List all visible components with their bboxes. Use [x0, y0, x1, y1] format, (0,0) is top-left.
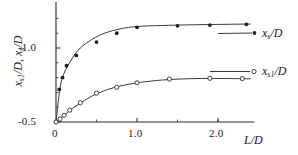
data-point-xs: [115, 31, 119, 35]
data-point-xs1: [135, 81, 139, 85]
data-point-xs: [74, 54, 78, 58]
legend-leader-xs: [218, 33, 252, 34]
series-label-xs1: xs1/D: [262, 65, 286, 79]
legend-marker-xs1: [252, 69, 256, 73]
data-point-xs1: [240, 77, 244, 81]
data-point-xs1: [54, 120, 58, 124]
legend-marker-xs: [253, 31, 257, 35]
axes-group: [56, 2, 254, 122]
y-tick-label-minus-one: -1.0: [18, 42, 36, 53]
data-point-xs: [95, 40, 99, 44]
data-point-xs1: [68, 108, 72, 112]
data-point-xs: [65, 64, 69, 68]
legend-lines-group: [210, 31, 256, 74]
markers-group: [54, 22, 248, 124]
data-point-xs1: [94, 91, 98, 95]
data-point-xs1: [78, 101, 82, 105]
plot-canvas: [0, 0, 298, 155]
data-point-xs1: [167, 77, 171, 81]
x-axis-label: L/D: [244, 134, 263, 146]
curve-xs1: [56, 78, 250, 122]
curve-xs: [56, 24, 250, 122]
data-point-xs: [61, 76, 65, 80]
y-tick-label-minus-half: -0.5: [18, 116, 36, 127]
y-axis-label: xs1/D, xs/D: [12, 18, 26, 104]
data-point-xs: [135, 25, 139, 29]
y-axis-label-x1: x: [11, 81, 25, 86]
data-point-xs: [244, 22, 248, 26]
data-point-xs: [208, 23, 212, 27]
series-label-xs: xs/D: [262, 27, 282, 41]
data-point-xs1: [62, 113, 66, 117]
data-point-xs1: [115, 85, 119, 89]
x-tick-label-zero: 0: [52, 128, 58, 139]
data-point-xs1: [208, 76, 212, 80]
y-axis-label-mid: /D,: [11, 56, 25, 74]
series-label-xs1-tail: /D: [274, 64, 286, 78]
curves-group: [56, 24, 250, 122]
data-point-xs: [176, 24, 180, 28]
x-tick-label-one: 1.0: [128, 128, 142, 139]
figure-container: xs1/D, xs/D -1.0 -0.5 0 1.0 2.0 L/D xs/D…: [0, 0, 298, 155]
data-point-xs: [57, 88, 61, 92]
x-tick-label-two: 2.0: [209, 128, 223, 139]
y-axis-label-sub1: s1: [17, 74, 26, 81]
data-point-xs1: [58, 117, 62, 121]
series-label-xs-tail: /D: [270, 26, 282, 40]
